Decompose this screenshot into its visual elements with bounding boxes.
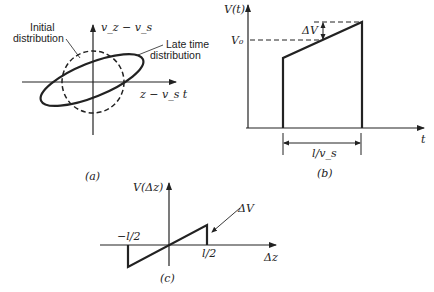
b-delta-v-label: ΔV bbox=[302, 25, 318, 36]
diagram-canvas bbox=[0, 0, 434, 292]
initial-leader-line bbox=[66, 39, 80, 58]
right-tick-label: l/2 bbox=[202, 248, 216, 259]
initial-label-line2: distribution bbox=[13, 33, 64, 44]
delta-v-pointer bbox=[212, 208, 240, 232]
late-label-line1: Late time bbox=[166, 39, 209, 50]
c-x-axis-label: Δz bbox=[264, 252, 278, 263]
b-x-axis-label: t bbox=[421, 134, 425, 145]
panel-c-sawtooth bbox=[100, 183, 276, 267]
initial-label-line1: Initial bbox=[30, 22, 55, 33]
a-y-axis-label: v_z − v_s bbox=[101, 22, 152, 33]
late-time-distribution-ellipse bbox=[35, 44, 150, 117]
c-y-axis-label: V(Δz) bbox=[133, 182, 163, 193]
panel-b-caption: (b) bbox=[317, 168, 333, 179]
b-y-axis-label: V(t) bbox=[224, 4, 245, 15]
late-label-line2: distribution bbox=[150, 50, 201, 61]
a-x-axis-label: z − v_s t bbox=[140, 89, 187, 100]
width-label: l/v_s bbox=[312, 148, 337, 159]
panel-c-caption: (c) bbox=[160, 273, 175, 284]
left-tick-label: −l/2 bbox=[117, 231, 140, 242]
c-delta-v-label: ΔV bbox=[238, 203, 254, 214]
panel-a-caption: (a) bbox=[85, 171, 100, 182]
panel-b-voltage-pulse bbox=[246, 5, 424, 155]
v0-label: V₀ bbox=[231, 35, 243, 46]
